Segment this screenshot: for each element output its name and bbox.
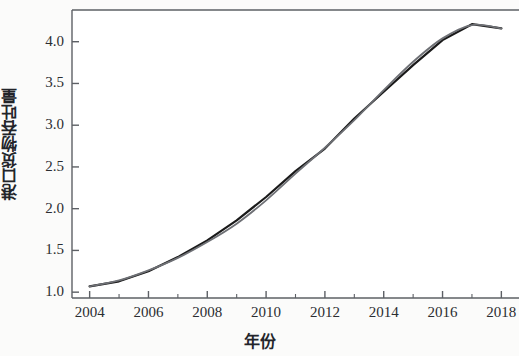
y-tick-label: 2.5 <box>24 158 64 175</box>
y-tick-label: 3.0 <box>24 116 64 133</box>
x-tick-label: 2016 <box>413 304 473 321</box>
x-tick-label: 2018 <box>471 304 519 321</box>
x-tick-label: 2012 <box>295 304 355 321</box>
y-axis-title: 港口货物吞吐量 <box>2 88 28 200</box>
x-tick-label: 2010 <box>236 304 296 321</box>
x-axis-title: 年份 <box>0 328 519 352</box>
plot-background <box>72 10 519 298</box>
x-tick-label: 2004 <box>60 304 120 321</box>
y-tick-label: 3.5 <box>24 74 64 91</box>
plot-canvas <box>0 0 519 356</box>
y-tick-label: 1.0 <box>24 283 64 300</box>
x-tick-label: 2014 <box>354 304 414 321</box>
y-tick-label: 1.5 <box>24 241 64 258</box>
chart-figure: 港口货物吞吐量 年份 1.01.52.02.53.03.54.0 2004200… <box>0 0 519 356</box>
x-tick-label: 2008 <box>177 304 237 321</box>
x-tick-label: 2006 <box>118 304 178 321</box>
y-tick-label: 2.0 <box>24 200 64 217</box>
y-tick-label: 4.0 <box>24 33 64 50</box>
